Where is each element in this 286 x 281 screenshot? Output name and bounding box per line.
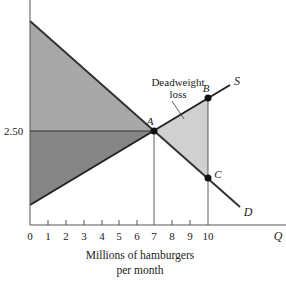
svg-text:2: 2	[63, 230, 69, 242]
annotation-line2: loss	[169, 88, 186, 100]
chart: 2.50 0 1 2 3 4 5 6 7 8 9 10 Q Millions o…	[0, 0, 286, 281]
point-b-label: B	[203, 82, 210, 94]
svg-text:4: 4	[99, 230, 105, 242]
svg-text:3: 3	[81, 230, 87, 242]
x-tick-labels: 0 1 2 3 4 5 6 7 8 9 10	[27, 230, 214, 242]
annotation-line1: Deadweight	[151, 76, 204, 88]
svg-text:0: 0	[27, 230, 33, 242]
supply-label: S	[234, 74, 240, 88]
x-axis-label-line2: per month	[117, 264, 164, 277]
svg-text:8: 8	[169, 230, 175, 242]
svg-text:5: 5	[116, 230, 122, 242]
point-a-label: A	[146, 115, 154, 127]
point-b	[205, 95, 212, 102]
x-axis-label-line1: Millions of hamburgers	[86, 249, 195, 262]
svg-text:9: 9	[187, 230, 193, 242]
point-c-label: C	[214, 168, 222, 180]
demand-label: D	[243, 205, 253, 219]
svg-text:7: 7	[151, 230, 157, 242]
y-tick-label: 2.50	[4, 125, 24, 137]
svg-text:1: 1	[45, 230, 51, 242]
svg-text:10: 10	[203, 230, 215, 242]
point-a	[151, 128, 158, 135]
x-ticks	[48, 220, 190, 225]
svg-text:6: 6	[134, 230, 140, 242]
point-c	[205, 175, 212, 182]
x-axis-symbol: Q	[274, 229, 283, 243]
